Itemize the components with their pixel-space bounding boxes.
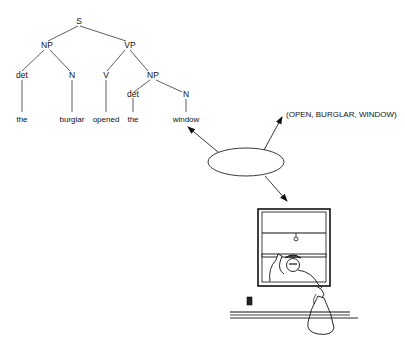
node-det-subject: det bbox=[16, 70, 28, 80]
central-ellipse bbox=[208, 148, 284, 176]
arrow-to-window-word bbox=[188, 127, 218, 152]
node-np-subject: NP bbox=[41, 40, 53, 50]
node-det-object: det bbox=[127, 89, 139, 99]
node-np-object: NP bbox=[147, 70, 159, 80]
arrow-to-illustration bbox=[265, 176, 287, 201]
arrow-to-proposition bbox=[264, 117, 282, 150]
node-v: V bbox=[103, 70, 109, 80]
node-s: S bbox=[76, 16, 82, 26]
word-window: window bbox=[172, 115, 200, 124]
arrows bbox=[188, 117, 287, 201]
diagram-canvas: S NP VP det N V NP det N the burglar ope… bbox=[0, 0, 405, 346]
proposition-label: (OPEN, BURGLAR, WINDOW) bbox=[286, 110, 397, 119]
word-opened: opened bbox=[93, 115, 120, 124]
node-n-subject: N bbox=[69, 70, 75, 80]
node-vp: VP bbox=[124, 40, 136, 50]
node-n-object: N bbox=[183, 89, 189, 99]
burglar-window-illustration bbox=[230, 209, 358, 334]
word-the-2: the bbox=[127, 115, 139, 124]
word-the-1: the bbox=[16, 115, 28, 124]
parse-tree-edges bbox=[22, 26, 186, 112]
word-burglar: burglar bbox=[60, 115, 85, 124]
